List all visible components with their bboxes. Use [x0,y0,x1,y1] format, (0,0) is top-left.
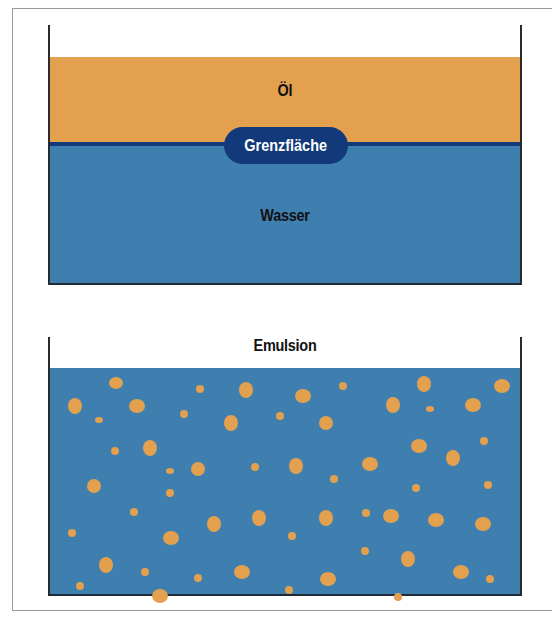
oil-droplet [289,458,303,474]
oil-droplet [411,439,427,453]
oil-droplet [95,417,103,423]
oil-droplet [166,468,174,474]
oil-droplet [234,565,250,579]
oil-droplet [129,399,145,413]
oil-droplet [426,406,434,412]
oil-droplet [361,547,369,555]
oil-droplet [465,398,481,412]
oil-droplet [486,575,494,583]
oil-droplet [446,450,460,466]
oil-droplet [428,513,444,527]
oil-droplet [412,484,420,492]
oil-droplet [191,462,205,476]
oil-droplet [99,557,113,573]
oil-droplet [111,447,119,455]
oil-droplet [196,385,204,393]
oil-droplet [224,415,238,431]
oil-droplet [143,440,157,456]
oil-droplet [87,479,101,493]
oil-droplet [484,481,492,489]
oil-droplet [295,389,311,403]
oil-droplet [166,489,174,497]
oil-droplet [252,510,266,526]
oil-droplet [152,589,168,603]
oil-droplet [163,531,179,545]
oil-droplet [386,397,400,413]
oil-droplet [130,508,138,516]
oil-droplet [285,586,293,594]
oil-droplet [383,509,399,523]
oil-droplet [494,379,510,393]
oil-droplet [339,382,347,390]
oil-droplet [480,437,488,445]
oil-droplet [68,398,82,414]
oil-droplet [394,593,402,601]
oil-droplet [141,568,149,576]
oil-droplet [319,416,333,430]
oil-droplet [109,377,123,389]
oil-droplet [362,509,370,517]
oil-droplet [76,582,84,590]
oil-droplet [288,532,296,540]
oil-droplet [194,574,202,582]
oil-droplet [453,565,469,579]
oil-droplet [276,412,284,420]
oil-droplet [239,382,253,398]
oil-droplet [475,517,491,531]
oil-droplet [417,376,431,392]
oil-droplet [207,516,221,532]
oil-droplet [251,463,259,471]
oil-droplet [68,529,76,537]
emulsion-droplets [0,0,553,623]
oil-droplet [180,410,188,418]
oil-droplet [401,551,415,567]
oil-droplet [362,457,378,471]
oil-droplet [320,572,336,586]
oil-droplet [330,475,338,483]
oil-droplet [319,510,333,526]
